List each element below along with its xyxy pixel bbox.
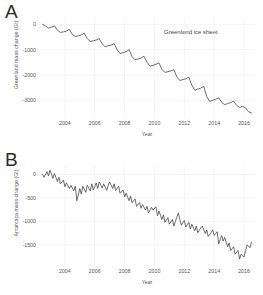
x-axis-tick-label: 2010 [149, 268, 161, 274]
x-axis-tick-label: 2008 [119, 120, 131, 126]
y-axis-tick-label: -3000 [22, 97, 36, 103]
y-axis-tick-label: 0 [33, 171, 36, 177]
panel-a-greenland: A Greenland mass change (Gt) Greenland i… [0, 0, 263, 147]
y-axis-tick-label: -1000 [22, 218, 36, 224]
y-axis-tick-label: -2000 [22, 72, 36, 78]
ice-sheet-mass-change-figure: A Greenland mass change (Gt) Greenland i… [0, 0, 263, 295]
y-axis-tick-label: -1000 [22, 47, 36, 53]
panel-a-x-axis-label: Year [38, 131, 256, 137]
data-series-line [42, 24, 251, 113]
y-axis-tick-label: -1500 [22, 242, 36, 248]
panel-a-y-axis-label: Greenland mass change (Gt) [13, 3, 19, 107]
x-axis-tick-label: 2014 [208, 120, 220, 126]
x-axis-tick-label: 2004 [59, 120, 71, 126]
x-axis-tick-label: 2012 [178, 268, 190, 274]
data-series-line [42, 170, 251, 259]
x-axis-tick-label: 2008 [119, 268, 131, 274]
panel-b-x-axis-label: Year [38, 279, 256, 285]
x-axis-tick-label: 2016 [238, 268, 250, 274]
panel-b-line-chart [38, 166, 256, 266]
y-axis-tick-label: -500 [25, 195, 36, 201]
x-axis-tick-label: 2014 [208, 268, 220, 274]
panel-b-y-axis-label: Antarctica mass change (Gt) [13, 151, 19, 255]
panel-b-antarctic: B Antarctica mass change (Gt) Antarctic … [0, 148, 263, 295]
x-axis-tick-label: 2006 [89, 120, 101, 126]
panel-b-plot-area: 0-500-1000-15002004200620082010201220142… [38, 166, 256, 266]
x-axis-tick-label: 2004 [59, 268, 71, 274]
x-axis-tick-label: 2012 [178, 120, 190, 126]
x-axis-tick-label: 2006 [89, 268, 101, 274]
panel-a-line-chart [38, 18, 256, 118]
y-axis-tick-label: 0 [33, 21, 36, 27]
x-axis-tick-label: 2016 [238, 120, 250, 126]
panel-a-plot-area: 0-1000-2000-3000200420062008201020122014… [38, 18, 256, 118]
x-axis-tick-label: 2010 [149, 120, 161, 126]
